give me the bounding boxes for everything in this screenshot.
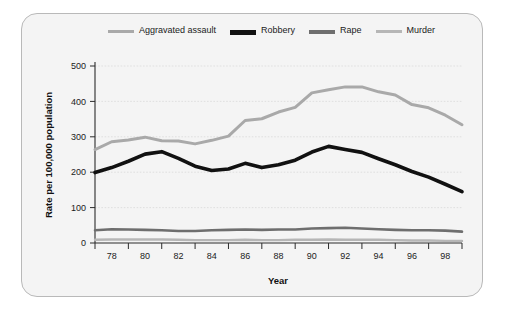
- x-tick-label: 92: [340, 251, 350, 261]
- x-axis-ticks: 7880828486889092949698: [95, 243, 462, 261]
- y-tick-label: 100: [71, 203, 86, 213]
- y-tick-label: 400: [71, 97, 86, 107]
- y-tick-label: 300: [71, 132, 86, 142]
- x-tick-label: 84: [207, 251, 217, 261]
- y-tick-label: 0: [81, 238, 86, 248]
- x-tick-label: 94: [374, 251, 384, 261]
- chart-screenshot: Aggravated assault Robbery Rape Murder 0…: [0, 0, 505, 320]
- series-line-murder: [95, 239, 462, 240]
- y-tick-label: 500: [71, 61, 86, 71]
- x-tick-label: 88: [273, 251, 283, 261]
- y-tick-label: 200: [71, 167, 86, 177]
- x-tick-label: 78: [107, 251, 117, 261]
- x-axis-title: Year: [268, 275, 288, 286]
- series-line-robbery: [95, 146, 462, 191]
- x-tick-label: 96: [407, 251, 417, 261]
- data-series-group: [95, 87, 462, 241]
- x-tick-label: 90: [307, 251, 317, 261]
- y-axis-title: Rate per 100,000 population: [43, 92, 54, 218]
- x-tick-label: 80: [140, 251, 150, 261]
- chart-plot-container: 0100200300400500 7880828486889092949698 …: [0, 0, 505, 320]
- line-chart: 0100200300400500 7880828486889092949698 …: [0, 0, 505, 320]
- series-line-rape: [95, 228, 462, 232]
- x-tick-label: 86: [240, 251, 250, 261]
- x-tick-label: 98: [440, 251, 450, 261]
- y-axis-ticks: 0100200300400500: [71, 61, 95, 248]
- series-line-aggravated-assault: [95, 87, 462, 150]
- x-tick-label: 82: [173, 251, 183, 261]
